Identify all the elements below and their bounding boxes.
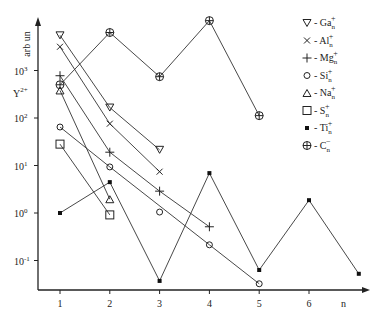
legend: - Gan+ - Aln+ - Mgn+ - Sin+ - Nan+ - Sn+… <box>303 14 339 154</box>
plus-marker-icon <box>205 222 214 231</box>
circle-marker-icon <box>157 209 163 215</box>
y-tick-label: 100 <box>14 207 28 219</box>
dot-marker-icon <box>108 180 112 184</box>
circle-marker-icon <box>304 73 310 79</box>
x-axis-arrow-icon <box>362 287 370 293</box>
legend-label: - Gan+ <box>314 14 336 31</box>
legend-item-ti: - Tin+ <box>305 119 333 136</box>
legend-label: - Aln+ <box>314 32 334 49</box>
dot-marker-icon <box>305 126 309 130</box>
square-marker-icon <box>303 107 311 115</box>
x-ticks: 123456 <box>58 290 312 309</box>
dot-marker-icon <box>207 171 211 175</box>
legend-label: - Mgn+ <box>314 49 338 66</box>
circle-plus-marker-icon <box>205 17 213 25</box>
dot-marker-icon <box>307 198 311 202</box>
y-axis-unit: arb un <box>21 31 32 56</box>
plus-marker-icon <box>56 71 65 80</box>
log-line-chart: 123456 10310210110010-1 arb unY2+ n - Ga… <box>0 0 374 318</box>
x-tick-label: 3 <box>157 298 162 309</box>
plus-marker-icon <box>303 54 312 63</box>
legend-item-si: - Sin+ <box>304 67 333 84</box>
legend-label: - Tin+ <box>314 119 333 136</box>
legend-item-s: - Sn+ <box>303 102 330 119</box>
x-marker-icon <box>57 44 63 50</box>
plus-marker-icon <box>155 187 164 196</box>
triangle-up-marker-icon <box>303 90 311 97</box>
circle-plus-marker-icon <box>156 73 164 81</box>
x-marker-icon <box>107 121 113 127</box>
x-tick-label: 6 <box>307 298 312 309</box>
plus-marker-icon <box>105 148 114 157</box>
circle-plus-marker-icon <box>56 81 64 89</box>
series-line-si <box>209 245 259 284</box>
circle-marker-icon <box>57 124 63 130</box>
x-marker-icon <box>304 38 310 44</box>
y-tick-label: 10-1 <box>14 255 30 267</box>
triangle-down-marker-icon <box>303 20 311 27</box>
dot-marker-icon <box>58 211 62 215</box>
legend-item-na: - Nan+ <box>303 84 336 101</box>
legend-label: - Cn− <box>314 137 331 154</box>
series-line-c <box>60 21 259 116</box>
legend-label: - Sn+ <box>314 102 330 119</box>
series-line-mg <box>60 76 209 227</box>
legend-item-mg: - Mgn+ <box>303 49 339 66</box>
legend-item-c: - Cn− <box>303 137 331 154</box>
circle-plus-marker-icon <box>106 29 114 37</box>
legend-label: - Sin+ <box>314 67 333 84</box>
circle-plus-marker-icon <box>303 142 311 150</box>
x-tick-label: 4 <box>207 298 212 309</box>
series-line-na <box>60 90 110 199</box>
series-line-si <box>60 127 110 167</box>
legend-item-al: - Aln+ <box>304 32 334 49</box>
x-axis-label: n <box>341 298 346 309</box>
x-tick-label: 1 <box>58 298 63 309</box>
legend-item-ga: - Gan+ <box>303 14 336 31</box>
dot-marker-icon <box>257 268 261 272</box>
series-line-s <box>60 144 110 215</box>
x-marker-icon <box>157 169 163 175</box>
y-tick-label: 102 <box>14 112 28 124</box>
y-tick-label: 103 <box>14 65 28 77</box>
y-axis-arrow-icon <box>35 17 41 26</box>
x-tick-label: 2 <box>107 298 112 309</box>
circle-plus-marker-icon <box>255 112 263 120</box>
y-tick-label: 101 <box>14 160 28 172</box>
dot-marker-icon <box>357 272 361 276</box>
y-axis-symbol: Y2+ <box>13 86 28 99</box>
dot-marker-icon <box>158 279 162 283</box>
series-line-ga <box>60 35 160 149</box>
x-tick-label: 5 <box>257 298 262 309</box>
legend-label: - Nan+ <box>314 84 336 101</box>
